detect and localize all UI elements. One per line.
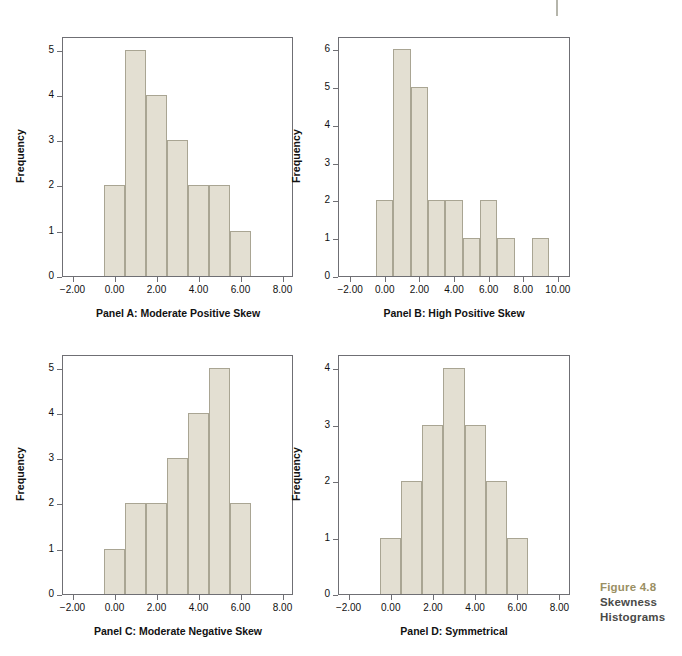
y-axis-tick-label: 2	[306, 475, 330, 486]
x-axis-tick	[433, 595, 434, 600]
bar-series	[339, 356, 569, 594]
chart-panel-d: 01234−2.000.002.004.006.008.00FrequencyP…	[0, 0, 682, 656]
figure-caption: Figure 4.8 Skewness Histograms	[600, 580, 680, 625]
histogram-bar	[380, 538, 401, 594]
x-axis-tick	[391, 595, 392, 600]
figure-title-line-2: Histograms	[600, 610, 680, 625]
histogram-bar	[465, 425, 486, 594]
y-axis-tick	[333, 369, 338, 370]
figure-number: Figure 4.8	[600, 580, 680, 595]
y-axis-tick-label: 3	[306, 419, 330, 430]
panel-caption: Panel D: Symmetrical	[294, 625, 614, 637]
y-axis-tick	[333, 482, 338, 483]
x-axis-tick	[517, 595, 518, 600]
y-axis-tick-label: 4	[306, 362, 330, 373]
y-axis-tick	[333, 539, 338, 540]
figure-title-line-1: Skewness	[600, 595, 680, 610]
y-axis-tick-label: 0	[306, 588, 330, 599]
x-axis-tick	[349, 595, 350, 600]
y-axis-tick	[333, 595, 338, 596]
histogram-bar	[486, 481, 507, 594]
x-axis-tick	[475, 595, 476, 600]
histogram-bar	[401, 481, 422, 594]
histogram-bar	[507, 538, 528, 594]
x-axis-tick	[559, 595, 560, 600]
y-axis-title: Frequency	[290, 354, 302, 594]
histogram-bar	[422, 425, 443, 594]
x-axis-tick-label: 8.00	[534, 602, 584, 613]
y-axis-tick	[333, 426, 338, 427]
y-axis-tick-label: 1	[306, 532, 330, 543]
plot-area	[338, 355, 570, 595]
histogram-bar	[443, 368, 464, 594]
